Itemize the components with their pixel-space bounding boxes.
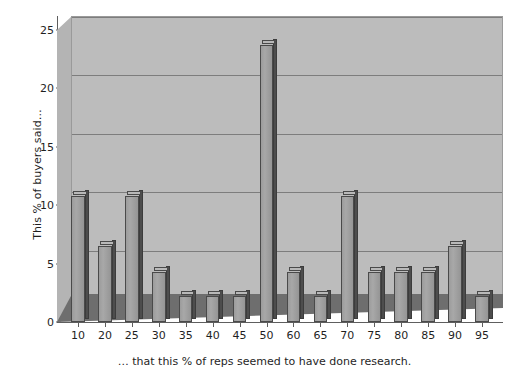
x-axis-tick-group: 10202530354045506065707580859095 [57,322,503,348]
bar-side-face [354,190,358,319]
bar-front-face [152,272,165,322]
bar-front-face [260,45,273,322]
bar-top-face [208,291,221,295]
bar-side-face [139,190,143,319]
bar-side-face [166,266,170,319]
bar-front-face [179,296,192,322]
bar-front-face [98,246,111,322]
x-tick-mark [78,322,79,327]
bar [448,241,461,322]
x-tick-label: 90 [440,329,470,342]
y-tick-label: 15 [20,140,54,153]
x-tick-label: 70 [332,329,362,342]
bar-top-face [450,241,463,245]
bar-top-face [423,267,436,271]
x-tick-label: 45 [225,329,255,342]
bar [233,291,246,322]
bar-front-face [341,196,354,322]
x-tick-label: 30 [144,329,174,342]
x-tick-mark [320,322,321,327]
y-tick-label: 25 [20,24,54,37]
bar [287,267,300,322]
x-tick-mark [105,322,106,327]
bar [98,241,111,322]
bar [179,291,192,322]
bar-side-face [462,240,466,319]
x-tick-mark [240,322,241,327]
y-tick-label: 0 [20,316,54,329]
bar-top-face [235,291,248,295]
bar-top-face [154,267,167,271]
bar [314,291,327,322]
bar-front-face [233,296,246,322]
bar-front-face [314,296,327,322]
x-axis-title: … that this % of reps seemed to have don… [0,355,529,368]
x-tick-mark [159,322,160,327]
x-tick-label: 95 [467,329,497,342]
y-axis-tick-group: 0510152025 [20,0,54,384]
x-tick-label: 60 [278,329,308,342]
bar-top-face [289,267,302,271]
y-tick-label: 5 [20,257,54,270]
x-tick-mark [186,322,187,327]
bar-chart: This % of buyers said… 0510152025 102025… [0,0,529,384]
x-tick-label: 20 [90,329,120,342]
bar [368,267,381,322]
x-tick-mark [401,322,402,327]
x-tick-label: 80 [386,329,416,342]
bar-front-face [421,272,434,322]
bar [71,191,84,322]
x-tick-label: 75 [359,329,389,342]
bar [421,267,434,322]
bar-top-face [370,267,383,271]
bar [206,291,219,322]
bar-top-face [73,191,86,195]
bar-front-face [206,296,219,322]
bar-front-face [125,196,138,322]
x-tick-mark [132,322,133,327]
x-tick-mark [213,322,214,327]
x-tick-label: 65 [305,329,335,342]
bar [394,267,407,322]
x-tick-mark [455,322,456,327]
bar-side-face [381,266,385,319]
y-tick-label: 20 [20,82,54,95]
x-tick-mark [347,322,348,327]
bar-top-face [100,241,113,245]
bar-side-face [408,266,412,319]
bar-front-face [71,196,84,322]
bar-front-face [394,272,407,322]
x-tick-mark [267,322,268,327]
x-tick-label: 10 [63,329,93,342]
bar [475,291,488,322]
bar [260,40,273,322]
x-tick-label: 35 [171,329,201,342]
bar-front-face [368,272,381,322]
bar [125,191,138,322]
bar-front-face [287,272,300,322]
x-tick-label: 85 [413,329,443,342]
x-tick-label: 40 [198,329,228,342]
plot-area [57,16,503,322]
bar-top-face [262,40,275,44]
bar-side-face [300,266,304,319]
bar-top-face [127,191,140,195]
x-tick-mark [482,322,483,327]
x-tick-mark [374,322,375,327]
bar-side-face [435,266,439,319]
x-tick-mark [428,322,429,327]
bar-top-face [181,291,194,295]
bar-side-face [273,39,277,319]
bar-top-face [316,291,329,295]
x-tick-label: 50 [252,329,282,342]
bar-front-face [448,246,461,322]
bar-side-face [112,240,116,319]
bar-top-face [477,291,490,295]
y-tick-label: 10 [20,199,54,212]
bar-top-face [343,191,356,195]
bar-group [57,16,503,322]
x-tick-mark [293,322,294,327]
bar [152,267,165,322]
x-tick-label: 25 [117,329,147,342]
bar-side-face [85,190,89,319]
